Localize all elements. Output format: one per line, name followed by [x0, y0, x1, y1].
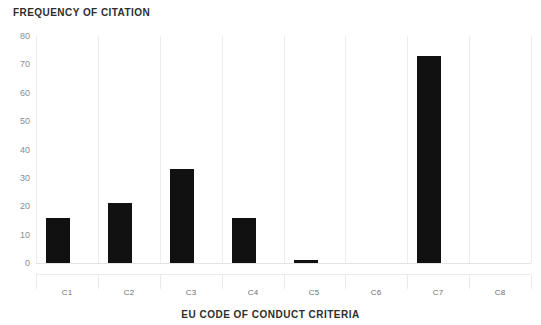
x-axis-tick-mark — [531, 275, 532, 289]
x-axis-title: EU CODE OF CONDUCT CRITERIA — [0, 309, 541, 320]
gridline-vertical — [469, 36, 470, 263]
y-axis-tick-40: 40 — [4, 145, 30, 154]
plot-area — [36, 36, 531, 263]
y-axis-tick-50: 50 — [4, 117, 30, 126]
x-axis-tick-label-C2: C2 — [124, 288, 135, 297]
gridline-vertical — [531, 36, 532, 263]
x-axis-tick-label-C4: C4 — [248, 288, 259, 297]
bar-C1 — [46, 218, 70, 263]
y-axis-tick-70: 70 — [4, 60, 30, 69]
x-axis-tick-mark — [160, 275, 161, 289]
x-axis-tick-mark — [222, 275, 223, 289]
x-axis-tick-mark — [98, 275, 99, 289]
x-axis-tick-mark — [469, 275, 470, 289]
gridline-vertical — [98, 36, 99, 263]
bar-C7 — [417, 56, 441, 263]
y-axis-tick-0: 0 — [4, 259, 30, 268]
x-axis-tick-mark — [407, 275, 408, 289]
bar-C3 — [170, 169, 194, 263]
x-axis-tick-strip — [36, 274, 531, 289]
x-axis-tick-label-C3: C3 — [186, 288, 197, 297]
x-axis-tick-label-C5: C5 — [309, 288, 320, 297]
x-axis-tick-label-C1: C1 — [62, 288, 73, 297]
y-axis-tick-20: 20 — [4, 202, 30, 211]
x-axis-tick-mark — [36, 275, 37, 289]
gridline-vertical — [345, 36, 346, 263]
y-axis-tick-10: 10 — [4, 230, 30, 239]
y-axis-tick-labels: 01020304050607080 — [0, 36, 30, 263]
gridline-vertical — [222, 36, 223, 263]
y-axis-tick-80: 80 — [4, 32, 30, 41]
gridline-vertical — [160, 36, 161, 263]
x-axis-baseline — [36, 263, 531, 264]
bar-C4 — [232, 218, 256, 263]
x-axis-tick-label-C6: C6 — [371, 288, 382, 297]
x-axis-tick-mark — [284, 275, 285, 289]
x-axis-tick-label-C8: C8 — [495, 288, 506, 297]
bar-C2 — [108, 203, 132, 263]
gridline-vertical — [284, 36, 285, 263]
gridline-vertical — [407, 36, 408, 263]
gridline-vertical — [36, 36, 37, 263]
x-axis-tick-mark — [345, 275, 346, 289]
x-axis-tick-label-C7: C7 — [433, 288, 444, 297]
y-axis-title: FREQUENCY OF CITATION — [13, 7, 150, 18]
y-axis-tick-30: 30 — [4, 173, 30, 182]
y-axis-tick-60: 60 — [4, 88, 30, 97]
bar-chart: FREQUENCY OF CITATION 01020304050607080 … — [0, 0, 541, 325]
